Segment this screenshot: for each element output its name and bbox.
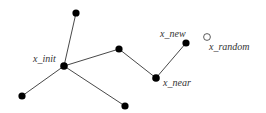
node-x-init: [60, 62, 68, 70]
rrt-tree-diagram: x_init x_near x_new x_random: [0, 0, 266, 113]
edge-init-mid: [64, 49, 119, 66]
edge-init-left: [22, 66, 64, 96]
node-x-random: [204, 34, 211, 41]
node-top: [72, 9, 79, 16]
node-left: [18, 92, 25, 99]
node-mid: [115, 45, 122, 52]
edge-near-new: [156, 43, 186, 78]
edge-mid-near: [119, 49, 156, 78]
label-x-init: x_init: [32, 53, 56, 64]
node-bottom: [121, 102, 128, 109]
edge-init-bottom: [64, 66, 125, 106]
edge-init-top: [64, 13, 76, 66]
node-x-new: [182, 39, 189, 46]
node-x-near: [152, 74, 160, 82]
label-x-near: x_near: [162, 77, 191, 88]
label-x-new: x_new: [159, 28, 186, 39]
label-x-random: x_random: [208, 41, 250, 52]
